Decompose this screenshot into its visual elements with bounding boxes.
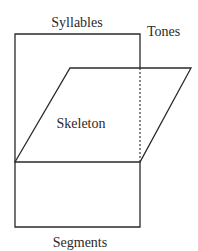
syllables-label: Syllables — [51, 15, 102, 30]
segments-plane — [15, 162, 140, 227]
tier-diagram: Syllables Tones Skeleton Segments — [0, 0, 198, 251]
tones-label: Tones — [147, 24, 180, 39]
skeleton-plane — [15, 68, 191, 162]
skeleton-label: Skeleton — [57, 116, 106, 131]
syllables-plane — [15, 34, 140, 162]
segments-label: Segments — [53, 235, 107, 250]
